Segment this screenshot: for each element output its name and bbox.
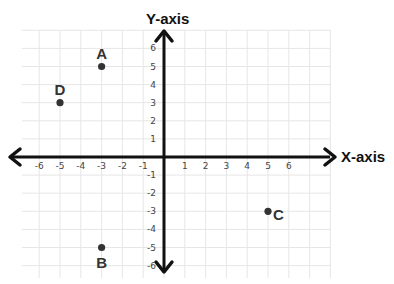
x-tick-label: -5: [56, 161, 65, 171]
x-tick-label: 1: [182, 161, 188, 171]
x-tick-label: -6: [35, 161, 44, 171]
coordinate-plane: Y-axis X-axis -6-5-4-3-2-1123456654321-1…: [0, 0, 394, 284]
x-tick-label: -4: [76, 161, 85, 171]
point-c-marker: [264, 208, 271, 215]
y-tick-label: 3: [150, 98, 156, 108]
y-tick-label: -3: [147, 206, 156, 216]
x-tick-label: -2: [118, 161, 127, 171]
axes: Y-axis X-axis: [10, 10, 385, 272]
point-b-marker: [98, 244, 105, 251]
point-a-marker: [98, 63, 105, 70]
grid-lines: [22, 30, 330, 278]
y-tick-label: -2: [147, 188, 156, 198]
y-tick-label: 2: [150, 116, 156, 126]
point-a-label: A: [96, 45, 107, 62]
x-tick-label: 2: [203, 161, 209, 171]
point-d-label: D: [55, 81, 66, 98]
point-b-label: B: [96, 254, 107, 271]
y-tick-label: 4: [150, 80, 156, 90]
x-tick-label: 3: [224, 161, 230, 171]
x-tick-label: -3: [97, 161, 106, 171]
y-axis-label: Y-axis: [146, 10, 189, 27]
x-tick-label: 5: [265, 161, 271, 171]
x-tick-label: 4: [244, 161, 250, 171]
y-tick-label: -4: [147, 224, 156, 234]
point-d-marker: [56, 99, 63, 106]
y-tick-label: 5: [150, 62, 156, 72]
x-axis-label: X-axis: [341, 148, 385, 165]
y-tick-label: -6: [147, 261, 156, 271]
y-tick-label: 6: [150, 43, 156, 53]
y-tick-label: -1: [147, 170, 156, 180]
x-tick-label: 6: [286, 161, 292, 171]
y-tick-label: 1: [150, 134, 156, 144]
point-c-label: C: [273, 206, 284, 223]
y-tick-label: -5: [147, 243, 156, 253]
